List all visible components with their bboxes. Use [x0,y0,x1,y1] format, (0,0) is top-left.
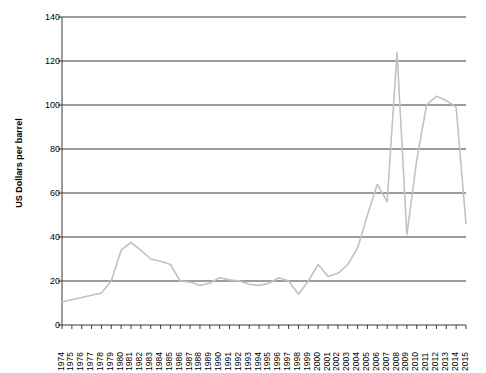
x-tick-label: 2010 [410,352,420,371]
x-tick-label: 1995 [262,352,272,371]
y-tick-label: 40 [34,232,60,242]
x-tick-label: 2006 [371,352,381,371]
y-tick-label: 140 [34,12,60,22]
x-tick-label: 1974 [56,352,66,371]
y-axis-tick-labels: 020406080100120140 [32,0,60,340]
x-tick-label: 1985 [164,352,174,371]
x-tick-label: 1976 [75,352,85,371]
x-tick-label: 2011 [420,353,430,371]
x-tick-label: 1979 [105,352,115,371]
x-tick-label: 1984 [154,352,164,371]
x-tick-label: 2000 [312,352,322,371]
x-tick-label: 2009 [400,352,410,371]
x-tick-label: 1990 [213,352,223,371]
x-tick-label: 1988 [193,352,203,371]
y-tick-label: 100 [34,100,60,110]
plot-area [0,0,486,373]
x-tick-label: 1977 [85,352,95,371]
x-tick-label: 1999 [302,352,312,371]
x-tick-label: 1982 [134,352,144,371]
x-tick-label: 1997 [282,352,292,371]
x-tick-label: 1996 [272,352,282,371]
x-tick-label: 1991 [223,352,233,371]
x-tick-label: 1983 [144,352,154,371]
x-tick-label: 1986 [174,352,184,371]
y-tick-label: 80 [34,144,60,154]
data-series-line [62,52,466,302]
x-tick-label: 1981 [124,352,134,371]
x-tick-label: 1975 [65,352,75,371]
y-axis-title-text: US Dollars per barrel [14,118,24,208]
x-tick-label: 2003 [341,352,351,371]
x-tick-label: 1992 [233,352,243,371]
x-tick-label: 2012 [430,352,440,371]
x-tick-label: 2013 [440,352,450,371]
x-tick-label: 2004 [351,352,361,371]
x-tick-label: 2015 [460,352,470,371]
x-axis-tick-labels: 1974197519761977197819791980198119821983… [0,328,486,373]
x-tick-label: 2014 [450,352,460,371]
x-tick-label: 2007 [381,352,391,371]
x-tick-label: 2005 [361,352,371,371]
y-axis-title: US Dollars per barrel [8,0,30,325]
x-tick-label: 1998 [292,352,302,371]
x-tick-label: 1993 [243,352,253,371]
x-tick-label: 2002 [331,352,341,371]
y-tick-label: 120 [34,56,60,66]
x-tick-label: 1978 [95,352,105,371]
oil-price-line-chart: US Dollars per barrel 020406080100120140… [0,0,486,373]
x-tick-label: 1989 [203,352,213,371]
y-tick-label: 60 [34,188,60,198]
y-tick-label: 20 [34,276,60,286]
gridlines [62,17,466,325]
